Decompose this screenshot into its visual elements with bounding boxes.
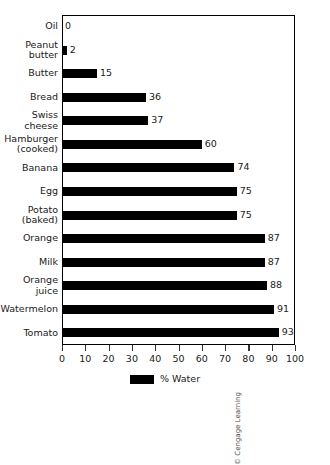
bar-value-label: 87 bbox=[265, 231, 280, 244]
axis-tick-label: 50 bbox=[172, 353, 184, 365]
axis-tick-label: 70 bbox=[219, 353, 231, 365]
axis-tick bbox=[109, 345, 110, 351]
legend-label-water: % Water bbox=[160, 373, 200, 385]
axis-tick bbox=[85, 345, 86, 351]
bar bbox=[62, 281, 267, 290]
category-label: Watermelon bbox=[0, 304, 58, 315]
category-label: Orange bbox=[0, 233, 58, 244]
bar-value-label: 75 bbox=[237, 208, 252, 221]
axis-tick bbox=[179, 345, 180, 351]
category-label: Butter bbox=[0, 68, 58, 79]
bar bbox=[62, 69, 97, 78]
bar-value-label: 74 bbox=[234, 160, 249, 173]
bar-value-label: 93 bbox=[279, 325, 294, 338]
copyright-credit: © Cengage Learning bbox=[320, 390, 328, 463]
bar-row: 75 bbox=[62, 181, 295, 203]
axis-tick bbox=[155, 345, 156, 351]
category-label: Swiss cheese bbox=[0, 110, 58, 131]
bar-row: 88 bbox=[62, 275, 295, 297]
bar-value-label: 36 bbox=[146, 90, 161, 103]
axis-tick bbox=[248, 345, 249, 351]
category-label: Potato (baked) bbox=[0, 205, 58, 226]
bar-row: 93 bbox=[62, 322, 295, 344]
axis-tick bbox=[62, 345, 63, 351]
axis-tick-label: 100 bbox=[286, 353, 304, 365]
category-label: Milk bbox=[0, 257, 58, 268]
bar-row: 37 bbox=[62, 110, 295, 132]
bar-value-label: 2 bbox=[67, 43, 76, 56]
category-label: Banana bbox=[0, 163, 58, 174]
bar-value-label: 87 bbox=[265, 255, 280, 268]
axis-tick-label: 20 bbox=[103, 353, 115, 365]
bar-value-label: 60 bbox=[202, 137, 217, 150]
bars-layer: 02153637607475758787889193 bbox=[62, 15, 295, 345]
bar-value-label: 15 bbox=[97, 66, 112, 79]
bar bbox=[62, 140, 202, 149]
bar-row: 60 bbox=[62, 134, 295, 156]
bar-value-label: 88 bbox=[267, 278, 282, 291]
bar bbox=[62, 328, 279, 337]
category-label: Peanut butter bbox=[0, 40, 58, 61]
axis-tick-label: 10 bbox=[79, 353, 91, 365]
bar-row: 15 bbox=[62, 63, 295, 85]
legend-swatch-water bbox=[130, 375, 154, 384]
bar-row: 36 bbox=[62, 87, 295, 109]
bar-value-label: 91 bbox=[274, 302, 289, 315]
bar-row: 87 bbox=[62, 252, 295, 274]
axis-tick-label: 40 bbox=[149, 353, 161, 365]
copyright-text: © Cengage Learning bbox=[234, 392, 242, 465]
bar bbox=[62, 305, 274, 314]
axis-tick bbox=[202, 345, 203, 351]
bar bbox=[62, 116, 148, 125]
bar-row: 91 bbox=[62, 299, 295, 321]
axis-tick-label: 80 bbox=[242, 353, 254, 365]
axis-tick-label: 60 bbox=[196, 353, 208, 365]
category-label: Egg bbox=[0, 186, 58, 197]
category-label: Oil bbox=[0, 21, 58, 32]
chart-legend: % Water bbox=[0, 373, 330, 385]
axis-tick-label: 30 bbox=[126, 353, 138, 365]
category-label: Orange juice bbox=[0, 275, 58, 296]
category-label: Hamburger (cooked) bbox=[0, 134, 58, 155]
bar-value-label: 37 bbox=[148, 113, 163, 126]
bar-value-label: 75 bbox=[237, 184, 252, 197]
bar-value-label: 0 bbox=[62, 19, 71, 32]
bar-row: 2 bbox=[62, 40, 295, 62]
axis-tick-label: 90 bbox=[266, 353, 278, 365]
axis-tick bbox=[272, 345, 273, 351]
axis-tick bbox=[295, 345, 296, 351]
category-axis-labels: OilPeanut butterButterBreadSwiss cheeseH… bbox=[0, 15, 58, 345]
axis-tick bbox=[225, 345, 226, 351]
bar bbox=[62, 163, 234, 172]
bar bbox=[62, 187, 237, 196]
bar bbox=[62, 211, 237, 220]
axis-tick bbox=[132, 345, 133, 351]
bar bbox=[62, 258, 265, 267]
bar-row: 75 bbox=[62, 205, 295, 227]
category-label: Bread bbox=[0, 92, 58, 103]
axis-tick-label: 0 bbox=[59, 353, 65, 365]
bar-row: 0 bbox=[62, 16, 295, 38]
bar bbox=[62, 234, 265, 243]
bar-row: 87 bbox=[62, 228, 295, 250]
bar-row: 74 bbox=[62, 157, 295, 179]
bar bbox=[62, 93, 146, 102]
category-label: Tomato bbox=[0, 328, 58, 339]
